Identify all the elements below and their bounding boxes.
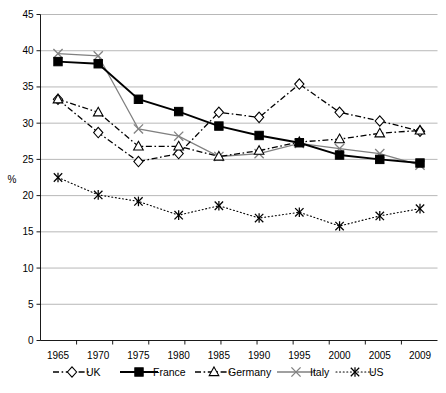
data-point-marker [94,127,103,137]
y-tick-label: 10 [22,263,34,274]
series-us [54,173,424,231]
x-tick-label: 1975 [127,350,150,361]
x-axis-tick-labels: 1965197019751980198519901995200020052009 [47,350,432,361]
legend-item-uk[interactable]: UK [53,366,101,378]
legend-label: Germany [228,366,272,378]
y-tick-label: 25 [22,154,34,165]
chart-legend[interactable]: UKFranceGermanyItalyUS [53,366,384,378]
x-tick-label: 1970 [87,350,110,361]
data-series [53,49,425,231]
y-tick-label: 20 [22,190,34,201]
data-point-marker [174,107,182,115]
data-point-marker [335,107,344,117]
legend-item-italy[interactable]: Italy [277,366,330,378]
x-tick-label: 1965 [47,350,70,361]
x-tick-label: 2005 [369,350,392,361]
data-point-marker [174,210,182,220]
data-point-marker [209,367,219,376]
legend-label: France [153,366,186,378]
legend-label: US [369,366,384,378]
data-point-marker [134,156,143,166]
y-axis-label: % [8,174,17,185]
data-point-marker [134,141,144,150]
data-point-marker [54,57,62,65]
line-chart: 051015202530354045 196519701975198019851… [0,0,446,393]
y-tick-label: 40 [22,45,34,56]
x-tick-label: 1990 [248,350,271,361]
data-point-marker [54,173,62,183]
series-france [54,57,424,167]
data-point-marker [94,60,102,68]
data-point-marker [135,368,143,376]
y-tick-label: 45 [22,9,34,20]
data-point-marker [215,122,223,130]
legend-item-france[interactable]: France [120,366,186,378]
data-point-marker [255,131,263,139]
data-point-marker [215,201,223,211]
data-point-marker [335,221,343,231]
x-tick-label: 1995 [288,350,311,361]
x-tick-label: 2000 [328,350,351,361]
data-point-marker [335,151,343,159]
y-axis-title: % [8,174,17,185]
y-tick-label: 30 [22,118,34,129]
y-tick-label: 5 [28,299,34,310]
x-tick-label: 2009 [409,350,432,361]
data-point-marker [335,134,345,143]
data-point-marker [295,79,304,89]
y-tick-label: 0 [28,335,34,346]
chart-container: 051015202530354045 196519701975198019851… [0,0,446,393]
series-germany [53,94,425,160]
series-italy [53,49,424,170]
data-point-marker [376,155,384,163]
data-point-marker [255,112,264,122]
legend-label: UK [86,366,101,378]
data-point-marker [416,204,424,214]
y-tick-label: 15 [22,226,34,237]
y-axis-tick-labels: 051015202530354045 [22,9,34,346]
legend-item-germany[interactable]: Germany [195,366,272,378]
data-point-marker [376,211,384,221]
data-point-marker [174,141,184,150]
legend-item-us[interactable]: US [336,366,384,378]
data-point-marker [416,159,424,167]
x-tick-label: 1985 [208,350,231,361]
data-point-marker [134,95,142,103]
data-point-marker [295,139,303,147]
data-point-marker [67,367,76,377]
legend-label: Italy [310,366,330,378]
x-tick-label: 1980 [168,350,191,361]
data-point-marker [375,116,384,126]
data-point-marker [134,197,142,207]
y-tick-label: 35 [22,81,34,92]
